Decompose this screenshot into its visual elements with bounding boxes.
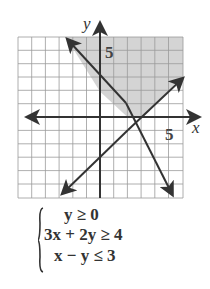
y-axis-label: y <box>83 14 91 34</box>
x-tick-5: 5 <box>165 125 174 145</box>
y-tick-5: 5 <box>105 43 114 63</box>
x-axis-label: x <box>192 118 200 138</box>
inequality-1: y ≥ 0 <box>64 205 99 225</box>
inequality-3: x − y ≤ 3 <box>54 246 116 266</box>
inequality-system: y ≥ 0 3x + 2y ≥ 4 x − y ≤ 3 <box>38 205 168 275</box>
coordinate-plane <box>0 0 210 205</box>
inequality-2: 3x + 2y ≥ 4 <box>44 225 123 245</box>
